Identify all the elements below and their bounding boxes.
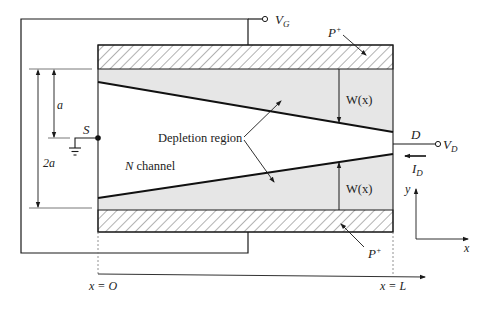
dimension-label-2a: 2a — [43, 156, 55, 170]
n-channel-label: N channel — [124, 159, 176, 173]
p-plus-bottom-layer — [98, 210, 393, 232]
x-end-label: x = L — [379, 279, 406, 293]
source-label: S — [83, 122, 90, 137]
p-plus-top-label: P+ — [327, 25, 341, 40]
drain-label: D — [410, 127, 421, 142]
drain-current-label: ID — [411, 161, 423, 178]
drain-voltage-label: VD — [443, 137, 458, 154]
gate-voltage-label: VG — [275, 12, 290, 29]
p-plus-top-layer — [98, 45, 393, 69]
ground-icon — [69, 138, 98, 155]
gate-terminal — [262, 16, 267, 21]
jfet-diagram: VG W(x) W(x) Depletion region N channel … — [0, 0, 488, 309]
x-start-label: x = O — [88, 279, 117, 293]
y-axis-label: y — [404, 182, 411, 196]
dimension-a-top-arrowhead — [52, 69, 56, 75]
dimension-label-a: a — [57, 98, 63, 112]
p-plus-bottom-label: P+ — [367, 246, 381, 261]
drain-terminal — [435, 141, 440, 146]
width-label-bottom: W(x) — [346, 182, 372, 196]
width-label-top: W(x) — [346, 93, 372, 107]
dimension-2a-top-arrowhead — [36, 69, 40, 75]
x-axis-label: x — [463, 241, 470, 255]
depletion-region-label: Depletion region — [158, 131, 243, 145]
x-extent-arrow — [98, 274, 425, 277]
